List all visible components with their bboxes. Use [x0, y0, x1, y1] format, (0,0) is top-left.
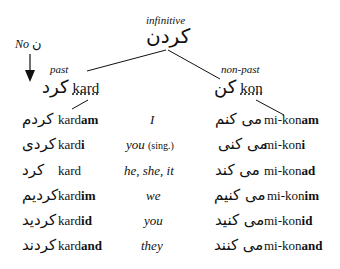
past-form-roman: kardid — [58, 213, 92, 229]
no-annotation: No ن — [15, 36, 42, 52]
past-form-persian: کردند — [22, 236, 56, 254]
nun-letter: ن — [32, 36, 42, 51]
nonpast-form-persian: می کنم — [215, 110, 262, 128]
no-label: No — [15, 37, 29, 51]
pronoun: we — [146, 188, 160, 204]
infinitive-persian: کردن — [146, 24, 190, 48]
past-form-persian: کرد — [22, 161, 44, 179]
nonpast-form-persian: می کنید — [215, 211, 264, 229]
pronoun: you (sing.) — [126, 137, 174, 153]
nonpast-form-roman: mi-konid — [264, 213, 312, 229]
past-form-persian: کردیم — [22, 186, 58, 204]
arrow-down-icon — [25, 70, 35, 82]
pronoun: you — [144, 213, 163, 229]
branch-line-past — [87, 50, 166, 71]
past-form-persian: کردید — [22, 211, 56, 229]
nonpast-form-roman: mi-konand — [264, 238, 323, 254]
nonpast-form-persian: می کنی — [218, 135, 267, 153]
conjugation-row: کرد kard he, she, it می کند mi-konad — [0, 161, 340, 181]
nonpast-form-persian: می کند — [215, 161, 260, 179]
branch-line-nonpast — [168, 50, 220, 79]
nonpast-label: non-past — [221, 63, 260, 75]
pronoun: I — [150, 112, 154, 128]
past-form-roman: kardam — [58, 112, 98, 128]
nonpast-form-persian: می کنند — [214, 236, 263, 254]
past-stem: kard — [73, 80, 100, 96]
nonpast-form-roman: mi-konam — [264, 112, 319, 128]
past-node: کرد kard — [42, 76, 99, 97]
nonpast-stem: kon — [240, 80, 263, 96]
pronoun: they — [141, 238, 163, 254]
past-form-persian: کردی — [22, 135, 56, 153]
past-persian: کرد — [42, 76, 69, 97]
conjugation-row: کردم kardam I می کنم mi-konam — [0, 110, 340, 130]
conjugation-row: کردیم kardim we می کنیم mi-konim — [0, 186, 340, 206]
nonpast-form-roman: mi-konim — [267, 188, 319, 204]
conjugation-row: کردی kardi you (sing.) می کنی mi-koni — [0, 135, 340, 155]
nonpast-form-roman: mi-konad — [264, 163, 315, 179]
nonpast-node: کن kon — [214, 76, 263, 97]
past-form-roman: kard — [58, 163, 81, 179]
past-form-roman: kardim — [58, 188, 96, 204]
stem-line-past — [72, 100, 88, 109]
pronoun: he, she, it — [124, 163, 174, 179]
past-label: past — [50, 63, 68, 75]
past-form-roman: kardi — [58, 137, 85, 153]
past-form-persian: کردم — [22, 110, 53, 128]
conjugation-row: کردید kardid you می کنید mi-konid — [0, 211, 340, 231]
conjugation-row: کردند kardand they می کنند mi-konand — [0, 236, 340, 256]
nonpast-form-roman: mi-koni — [264, 137, 305, 153]
past-form-roman: kardand — [58, 238, 102, 254]
nonpast-form-persian: می کنیم — [214, 186, 265, 204]
nonpast-persian: کن — [214, 76, 236, 97]
